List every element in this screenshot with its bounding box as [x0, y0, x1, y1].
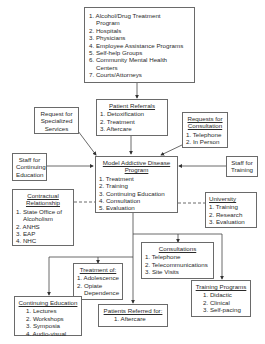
list-item: 2. Workshops — [26, 315, 78, 322]
list-item: 3. Aftercare — [100, 125, 164, 132]
consultation-requests-title-1: Requests for — [186, 115, 224, 122]
specialized-services-box: Request for Specialized Services — [34, 107, 79, 134]
patient-referrals-box: Patient Referrals 1. Detoxification 2. T… — [96, 99, 168, 136]
list-item: 3. Symposia — [26, 322, 78, 329]
contractual-title-2: Relationship — [16, 199, 70, 206]
list-item: 7. Courts/Attorneys — [89, 71, 190, 78]
list-item: 2. ANHS — [16, 223, 70, 230]
list-item: 3. Self-pacing — [203, 306, 247, 313]
list-item: 2. In Person — [186, 138, 224, 145]
list-item: 4. Employee Assistance Programs — [89, 42, 190, 49]
list-item: 5. Self-help Groups — [89, 49, 190, 56]
list-item: 5. Evaluation — [99, 204, 174, 211]
list-item: 3. Physicians — [89, 34, 190, 41]
text-line: Specialized — [38, 117, 75, 124]
list-item: 1. Lectures — [26, 307, 78, 314]
referral-sources-list: 1. Alcohol/Drug Treatment Program 2. Hos… — [89, 12, 190, 79]
list-item: 4. Audio-visual — [26, 330, 78, 337]
list-item: 1. Aftercare — [114, 315, 164, 322]
training-programs-title: Training Programs — [195, 283, 247, 290]
treatment-of-title: Treatment of: — [77, 266, 119, 273]
continuing-education-box: Continuing Education 1. Lectures 2. Work… — [14, 296, 82, 336]
list-item: Centers — [89, 64, 190, 71]
consultation-requests-title-2: Consultation — [186, 122, 224, 129]
consultation-requests-box: Requests for Consultation 1. Telephone 2… — [182, 112, 228, 148]
list-item: 2. Clinical — [203, 299, 247, 306]
list-item: 1. Adolescence — [77, 274, 119, 281]
staff-continuing-education-box: Staff for Continuing Education — [12, 153, 47, 181]
consultations-box: Consultations 1. Telephone 2. Telecommun… — [141, 242, 214, 279]
text-line: Continuing — [16, 163, 43, 170]
list-item: 1. Telephone — [186, 131, 224, 138]
list-item: 1. State Office of — [16, 208, 70, 215]
list-item: 1. Training — [209, 203, 253, 210]
text-line: Education — [16, 171, 43, 178]
staff-training-box: Staff for Training — [226, 156, 258, 177]
list-item: Alcoholism — [16, 215, 70, 222]
text-line: Services — [38, 125, 75, 132]
text-line: Training — [230, 166, 254, 173]
patient-referrals-title: Patient Referrals — [100, 102, 164, 109]
list-item: 1. Detoxification — [100, 110, 164, 117]
patients-referred-box: Patients Referred for: 1. Aftercare — [98, 304, 168, 327]
list-item: 2. Training — [99, 182, 174, 189]
list-item: 1. Treatment — [99, 175, 174, 182]
contractual-relationship-box: Contractual Relationship 1. State Office… — [12, 189, 74, 246]
list-item: 4. NHC — [16, 237, 70, 244]
contractual-title-1: Contractual — [16, 192, 70, 199]
text-line: Staff for — [16, 156, 43, 163]
list-item: 2. Hospitals — [89, 27, 190, 34]
list-item: 2. Opiate — [77, 282, 119, 289]
list-item: 3. EAP — [16, 230, 70, 237]
university-box: University 1. Training 2. Research 3. Ev… — [205, 192, 257, 228]
list-item: 4. Consultation — [99, 197, 174, 204]
list-item: 6. Community Mental Health — [89, 56, 190, 63]
consultations-title: Consultations — [145, 245, 210, 252]
text-line: Request for — [38, 110, 75, 117]
patients-referred-title: Patients Referred for: — [102, 307, 164, 314]
continuing-education-title: Continuing Education — [18, 299, 78, 306]
training-programs-box: Training Programs 1. Didactic 2. Clinica… — [191, 280, 251, 317]
list-item: Dependence — [77, 289, 119, 296]
university-title: University — [209, 195, 253, 202]
list-item: 1. Telephone — [145, 253, 210, 260]
model-program-title-1: Model Addictive Disease — [99, 159, 174, 166]
treatment-of-box: Treatment of: 1. Adolescence 2. Opiate D… — [73, 263, 123, 300]
list-item: 2. Research — [209, 211, 253, 218]
list-item: 3. Site Visits — [145, 268, 210, 275]
list-item: Program — [89, 19, 190, 26]
model-program-box: Model Addictive Disease Program 1. Treat… — [95, 156, 178, 213]
list-item: 1. Alcohol/Drug Treatment — [89, 12, 190, 19]
list-item: 3. Evaluation — [209, 218, 253, 225]
model-program-title-2: Program — [99, 166, 174, 173]
list-item: 2. Treatment — [100, 118, 164, 125]
list-item: 3. Continuing Education — [99, 190, 174, 197]
referral-sources-box: 1. Alcohol/Drug Treatment Program 2. Hos… — [84, 7, 195, 83]
list-item: 1. Didactic — [203, 291, 247, 298]
list-item: 2. Telecommunications — [145, 261, 210, 268]
text-line: Staff for — [230, 159, 254, 166]
